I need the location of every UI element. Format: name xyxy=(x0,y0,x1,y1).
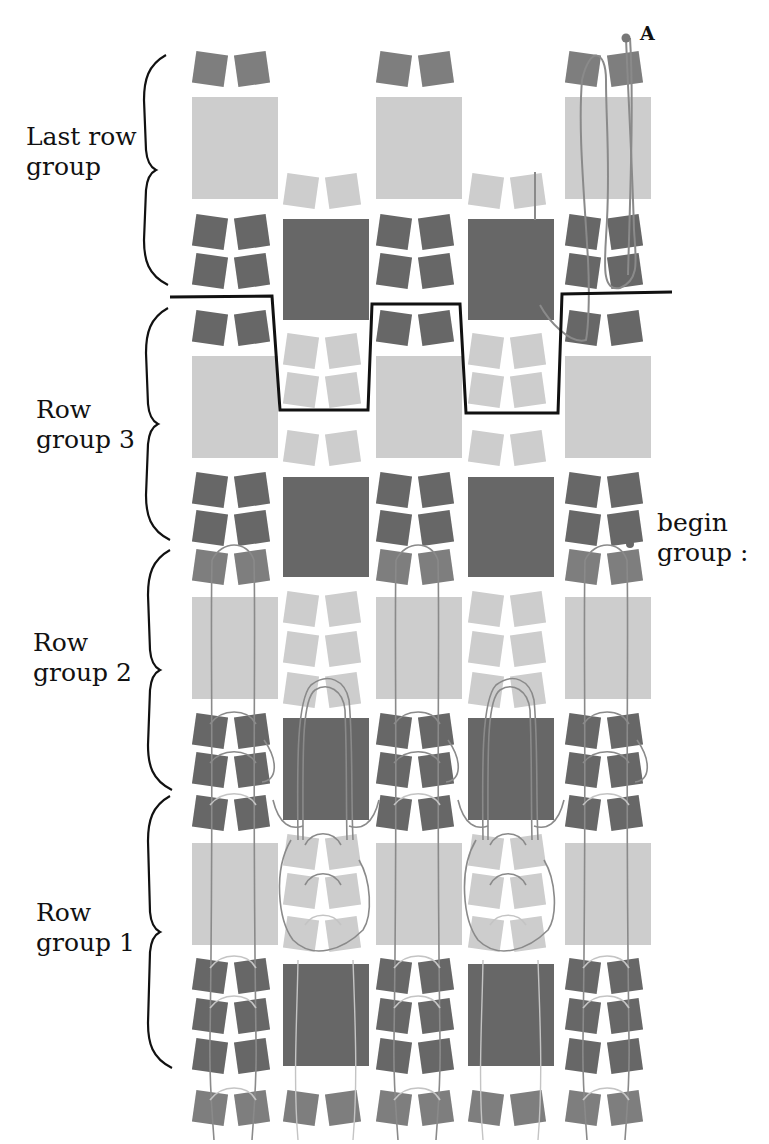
small-tile xyxy=(283,430,319,466)
begin-group-marker xyxy=(626,540,634,548)
small-tile xyxy=(607,510,643,546)
small-tile xyxy=(376,214,412,250)
brace-last-row-group xyxy=(144,55,168,285)
small-tile xyxy=(510,873,546,909)
label-line: Row xyxy=(33,628,132,658)
small-tile xyxy=(192,752,228,788)
large-dark-tile xyxy=(283,219,369,320)
large-dark-tile xyxy=(468,219,554,320)
label-line: group xyxy=(26,152,137,182)
small-tile xyxy=(234,310,270,346)
small-tile xyxy=(325,591,361,627)
brace-row-group-2 xyxy=(148,550,172,790)
small-tile xyxy=(607,253,643,289)
large-light-tile xyxy=(192,597,278,699)
small-tile xyxy=(468,834,504,870)
small-tile xyxy=(283,873,319,909)
small-tile xyxy=(376,253,412,289)
large-dark-tile xyxy=(468,718,554,820)
large-light-tile xyxy=(376,97,462,199)
small-tile xyxy=(192,472,228,508)
label-begin-group: begin group : xyxy=(657,508,748,568)
small-tile xyxy=(565,549,601,585)
large-dark-tile xyxy=(468,477,554,577)
small-tile xyxy=(192,214,228,250)
small-tile xyxy=(468,1090,504,1126)
small-tile xyxy=(418,51,454,87)
label-line: Row xyxy=(36,898,135,928)
small-tile xyxy=(565,713,601,749)
label-row-group-2: Row group 2 xyxy=(33,628,132,688)
small-tile xyxy=(468,591,504,627)
small-tile xyxy=(325,430,361,466)
small-tile xyxy=(192,549,228,585)
small-tile xyxy=(468,873,504,909)
brace-row-group-1 xyxy=(148,796,172,1068)
small-tile xyxy=(234,214,270,250)
small-tile xyxy=(376,752,412,788)
small-tile xyxy=(325,631,361,667)
small-tile xyxy=(192,51,228,87)
small-tile xyxy=(510,834,546,870)
small-tile xyxy=(468,430,504,466)
small-tile xyxy=(325,916,361,952)
label-point-a: A xyxy=(640,22,655,44)
small-tile xyxy=(376,472,412,508)
small-tile xyxy=(565,510,601,546)
small-tile xyxy=(565,1090,601,1126)
small-tile xyxy=(565,472,601,508)
small-tile xyxy=(283,672,319,708)
small-tile xyxy=(192,713,228,749)
small-tile xyxy=(418,1038,454,1074)
label-row-group-3: Row group 3 xyxy=(36,395,135,455)
small-tile xyxy=(283,372,319,408)
small-tile xyxy=(234,472,270,508)
small-tile xyxy=(192,795,228,831)
label-line: group : xyxy=(657,538,748,568)
small-tile xyxy=(192,510,228,546)
small-tile xyxy=(325,372,361,408)
large-light-tile xyxy=(565,843,651,945)
small-tile xyxy=(192,253,228,289)
label-line: group 1 xyxy=(36,928,135,958)
small-tile xyxy=(510,591,546,627)
small-tile xyxy=(234,253,270,289)
small-tile xyxy=(510,631,546,667)
small-tile xyxy=(565,795,601,831)
small-tile xyxy=(607,51,643,87)
small-tile xyxy=(325,873,361,909)
small-tile xyxy=(418,472,454,508)
large-light-tile xyxy=(565,356,651,458)
small-tile xyxy=(283,333,319,369)
large-light-tile xyxy=(376,356,462,458)
small-tile xyxy=(510,173,546,209)
small-tile xyxy=(510,430,546,466)
small-tile xyxy=(283,1090,319,1126)
large-light-tile xyxy=(192,356,278,458)
small-tile xyxy=(325,173,361,209)
large-dark-tile xyxy=(283,718,369,820)
small-tile xyxy=(376,310,412,346)
label-line: Row xyxy=(36,395,135,425)
small-tile xyxy=(565,752,601,788)
small-tile xyxy=(565,214,601,250)
small-tile xyxy=(510,333,546,369)
small-tile xyxy=(234,510,270,546)
small-tile xyxy=(376,510,412,546)
small-tile xyxy=(376,51,412,87)
large-light-tile xyxy=(192,843,278,945)
small-tile xyxy=(376,713,412,749)
small-tile xyxy=(468,631,504,667)
tile-grid xyxy=(192,51,651,1126)
small-tile xyxy=(468,173,504,209)
large-light-tile xyxy=(192,97,278,199)
small-tile xyxy=(418,310,454,346)
small-tile xyxy=(510,916,546,952)
large-light-tile xyxy=(376,597,462,699)
small-tile xyxy=(468,672,504,708)
label-last-row-group: Last row group xyxy=(26,122,137,182)
small-tile xyxy=(234,1038,270,1074)
label-line: begin xyxy=(657,508,748,538)
label-line: group 2 xyxy=(33,658,132,688)
brace-row-group-3 xyxy=(146,308,170,540)
